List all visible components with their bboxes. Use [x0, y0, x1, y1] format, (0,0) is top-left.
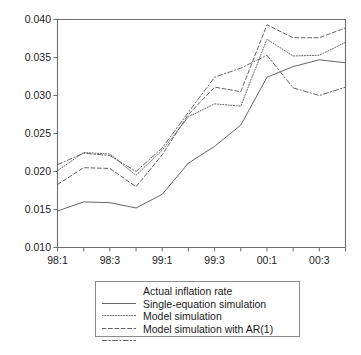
- y-tick-label: 0.025: [25, 127, 51, 139]
- series-line-solid: [58, 60, 346, 211]
- legend-row: Model simulation: [96, 310, 299, 323]
- legend-swatch-dashdot: [102, 328, 136, 329]
- legend-row: Model simulation with AR(1): [96, 323, 299, 336]
- legend-label: Model simulation: [143, 310, 222, 323]
- y-tick-label: 0.035: [25, 51, 51, 63]
- y-axis-tick-labels: 0.0100.0150.0200.0250.0300.0350.040: [25, 13, 51, 253]
- y-tick-label: 0.020: [25, 165, 51, 177]
- legend-swatch-dashed: [102, 316, 136, 317]
- x-tick-label: 00:1: [257, 254, 278, 266]
- legend-label: Model simulation with AR(1): [143, 323, 273, 336]
- series-line-dashed: [58, 25, 346, 187]
- data-series-group: [58, 25, 346, 211]
- x-tick-label: 00:3: [309, 254, 330, 266]
- y-tick-label: 0.030: [25, 89, 51, 101]
- chart-legend: Actual inflation rateSingle-equation sim…: [95, 281, 300, 337]
- legend-row: Actual inflation rate: [96, 285, 299, 298]
- axis-tick-marks: [54, 20, 346, 252]
- x-axis-tick-labels: 98:198:399:199:300:100:3: [47, 254, 329, 266]
- inflation-simulation-chart: 0.0100.0150.0200.0250.0300.0350.040 98:1…: [0, 0, 361, 355]
- legend-swatch-solid: [102, 291, 136, 292]
- legend-label: Actual inflation rate: [143, 285, 232, 298]
- legend-swatch-dotted: [102, 303, 136, 304]
- y-tick-label: 0.010: [25, 241, 51, 253]
- x-tick-label: 99:3: [204, 254, 225, 266]
- series-line-dashdot: [58, 55, 346, 171]
- x-tick-label: 98:3: [100, 254, 121, 266]
- plot-axes: [57, 19, 346, 248]
- x-tick-label: 99:1: [152, 254, 173, 266]
- y-tick-label: 0.015: [25, 203, 51, 215]
- legend-row: Single-equation simulation: [96, 298, 299, 311]
- y-tick-label: 0.040: [25, 13, 51, 25]
- x-tick-label: 98:1: [47, 254, 68, 266]
- legend-label: Single-equation simulation: [143, 298, 266, 311]
